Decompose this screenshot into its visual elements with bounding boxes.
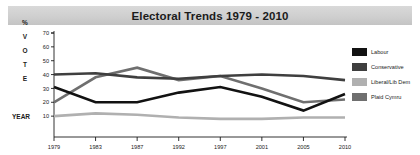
svg-text:1979: 1979: [48, 144, 60, 150]
legend-label-plaid-cymru: Plaid Cymru: [371, 94, 401, 100]
legend-label-labour: Labour: [371, 49, 388, 55]
legend-swatch-plaid-cymru: [352, 93, 367, 101]
legend-item-plaid-cymru: Plaid Cymru: [352, 89, 418, 104]
svg-text:50: 50: [43, 58, 49, 64]
legend: Labour Conservative Liberal/Lib Dem Plai…: [352, 44, 418, 104]
svg-text:1987: 1987: [131, 144, 143, 150]
legend-swatch-labour: [352, 48, 367, 56]
legend-item-conservative: Conservative: [352, 59, 418, 74]
svg-text:2005: 2005: [297, 144, 309, 150]
title-banner: Electoral Trends 1979 - 2010: [8, 6, 412, 25]
svg-text:1983: 1983: [89, 144, 101, 150]
svg-text:1997: 1997: [214, 144, 226, 150]
svg-text:30: 30: [43, 86, 49, 92]
svg-text:2010: 2010: [339, 144, 351, 150]
legend-label-conservative: Conservative: [371, 64, 404, 70]
legend-item-liberal-lib-dem: Liberal/Lib Dem: [352, 74, 418, 89]
legend-swatch-liberal-lib-dem: [352, 78, 367, 86]
legend-swatch-conservative: [352, 63, 367, 71]
legend-label-liberal-lib-dem: Liberal/Lib Dem: [371, 79, 410, 85]
svg-text:20: 20: [43, 99, 49, 105]
svg-text:70: 70: [43, 30, 49, 36]
svg-text:40: 40: [43, 72, 49, 78]
svg-text:60: 60: [43, 44, 49, 50]
svg-text:10: 10: [43, 113, 49, 119]
chart-screenshot: Electoral Trends 1979 - 2010 % V O T E Y…: [0, 0, 420, 155]
page-title: Electoral Trends 1979 - 2010: [132, 10, 289, 22]
svg-text:2001: 2001: [256, 144, 268, 150]
legend-item-labour: Labour: [352, 44, 418, 59]
svg-text:1992: 1992: [172, 144, 184, 150]
